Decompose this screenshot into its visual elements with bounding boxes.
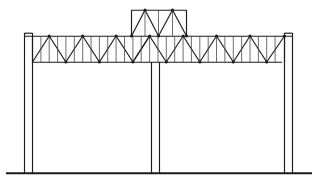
central-truss-web (133, 36, 200, 62)
joint-node (48, 35, 51, 38)
left-truss-web (33, 36, 150, 62)
monitor-diagonal (145, 10, 159, 36)
joint-node (182, 35, 185, 38)
joint-node (171, 9, 174, 12)
joint-node (64, 61, 67, 64)
monitor-diagonal (132, 10, 146, 36)
joint-node (98, 61, 101, 64)
frame-elevation-svg (0, 0, 318, 188)
joint-node (165, 61, 168, 64)
joint-node (131, 61, 134, 64)
joint-node (157, 35, 160, 38)
monitor-diagonal (159, 10, 173, 36)
joint-node (148, 35, 151, 38)
joint-node (249, 35, 252, 38)
joint-node (81, 35, 84, 38)
joint-node (198, 61, 201, 64)
joint-node (265, 61, 268, 64)
joint-node (283, 35, 286, 38)
web-diagonal (267, 36, 285, 62)
right-column (285, 33, 293, 173)
joint-node (232, 61, 235, 64)
joint-node (130, 35, 133, 38)
drawing-canvas (0, 0, 318, 188)
monitor-diagonal (173, 10, 187, 36)
roof-monitor (132, 10, 187, 36)
center-column (152, 62, 160, 173)
right-truss-web (200, 36, 285, 62)
left-column (25, 33, 33, 173)
joint-node (115, 35, 118, 38)
joint-node (185, 35, 188, 38)
joint-node (215, 35, 218, 38)
joint-node (144, 9, 147, 12)
